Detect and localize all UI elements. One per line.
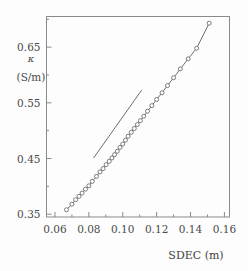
data-point-marker (132, 126, 136, 130)
series-line (66, 23, 209, 210)
data-point-marker (70, 202, 74, 206)
data-point-marker (160, 91, 164, 95)
data-point-marker (165, 84, 169, 88)
data-point-marker (94, 174, 98, 178)
plot-frame (47, 17, 230, 218)
data-point-marker (87, 184, 91, 188)
y-tick-label: 0.55 (17, 97, 40, 109)
y-tick-label: 0.45 (17, 153, 40, 165)
data-point-marker (172, 76, 176, 80)
data-point-marker (101, 167, 105, 171)
x-tick-label: 0.12 (145, 223, 168, 235)
data-point-marker (104, 163, 108, 167)
y-tick-label: 0.35 (17, 208, 40, 220)
data-point-marker (74, 198, 78, 202)
data-point-marker (126, 134, 130, 138)
y-axis-unit-label: (S/m) (17, 71, 46, 83)
data-point-marker (150, 104, 154, 108)
data-point-marker (129, 130, 133, 134)
chart-figure: 0.060.080.100.120.140.16 0.650.550.450.3… (0, 0, 248, 271)
series-0 (64, 21, 211, 212)
data-point-marker (142, 114, 146, 118)
data-point-marker (155, 97, 159, 101)
x-tick-label: 0.16 (213, 223, 237, 235)
data-point-marker (83, 187, 87, 191)
chart-canvas: 0.060.080.100.120.140.16 0.650.550.450.3… (0, 0, 248, 271)
data-point-marker (207, 21, 211, 25)
data-point-marker (98, 170, 102, 174)
data-series-layer (64, 21, 211, 212)
y-tick-label: 0.65 (17, 41, 40, 53)
x-tick-label: 0.06 (43, 223, 67, 235)
data-point-marker (195, 46, 199, 50)
data-point-marker (77, 194, 81, 198)
data-point-marker (90, 179, 94, 183)
x-tick-label: 0.08 (77, 223, 100, 235)
data-point-marker (121, 142, 125, 146)
data-point-marker (138, 119, 142, 123)
x-tick-labels: 0.060.080.100.120.140.16 (43, 223, 236, 235)
x-axis-title: SDEC (m) (168, 249, 223, 262)
data-point-marker (186, 57, 190, 61)
y-axis-symbol-label: κ (27, 53, 35, 64)
data-point-marker (123, 138, 127, 142)
y-tick-labels: 0.650.550.450.35 (17, 41, 40, 220)
data-point-marker (178, 67, 182, 71)
data-point-marker (64, 208, 68, 212)
data-point-marker (115, 149, 119, 153)
x-tick-label: 0.14 (179, 223, 203, 235)
data-point-marker (135, 123, 139, 127)
x-tick-label: 0.10 (111, 223, 134, 235)
data-point-marker (145, 109, 149, 113)
data-point-marker (80, 191, 84, 195)
